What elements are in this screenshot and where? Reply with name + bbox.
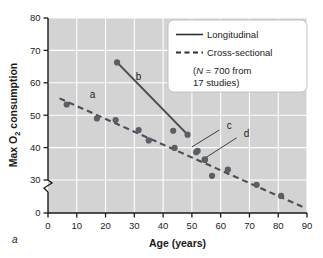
data-point [146,137,152,143]
data-point [195,148,201,154]
data-point [202,157,208,163]
x-tick-label: 40 [158,220,169,231]
legend-label-longitudinal: Longitudinal [207,29,258,40]
y-tick-label: 50 [30,110,41,121]
legend-note-rest: = 700 from [203,65,251,76]
x-tick-label: 80 [273,220,284,231]
data-point [136,127,142,133]
y-tick-label: 80 [30,12,41,23]
y-tick-label: 70 [30,45,41,56]
data-point [64,101,70,107]
x-tick-label: 30 [129,220,140,231]
x-tick-label: 50 [187,220,198,231]
y-axis-title: Max O2 consumption [7,63,22,168]
y-axis-title-main: Max O [7,136,19,168]
y-tick-label: 40 [30,142,41,153]
legend: Longitudinal Cross-sectional (N = 700 fr… [168,20,307,92]
data-point [209,173,215,179]
x-tick-label: 10 [71,220,82,231]
data-point [114,59,120,65]
data-point [184,132,190,138]
x-tick-label: 70 [244,220,255,231]
x-tick-label: 0 [45,220,50,231]
x-tick-label: 90 [302,220,313,231]
data-point [254,182,260,188]
legend-note-line-2: 17 studies) [193,77,239,88]
data-point [278,193,284,199]
annotation-label-a: a [90,89,96,100]
annotation-label-d: d [244,128,250,139]
x-tick-label: 20 [100,220,111,231]
data-point [113,117,119,123]
annotation-label-b: b [136,71,142,82]
x-axis-title: Age (years) [149,237,206,249]
legend-label-cross-sectional: Cross-sectional [207,47,272,58]
y-axis-title-tail: consumption [7,63,19,132]
y-tick-label: 30 [30,174,41,185]
x-axis-ticks: 0102030405060708090 [45,213,312,231]
y-tick-label: 60 [30,77,41,88]
figure-panel-a: 0102030405060708090 0304050607080 abcd A… [0,0,323,258]
data-point [170,128,176,134]
data-point [225,167,231,173]
y-tick-label: 0 [35,207,40,218]
data-point [94,115,100,121]
x-tick-label: 60 [215,220,226,231]
legend-note-line-1: (N = 700 from [193,65,251,76]
panel-label: a [12,234,18,245]
annotation-label-c: c [227,120,232,131]
data-point [172,145,178,151]
